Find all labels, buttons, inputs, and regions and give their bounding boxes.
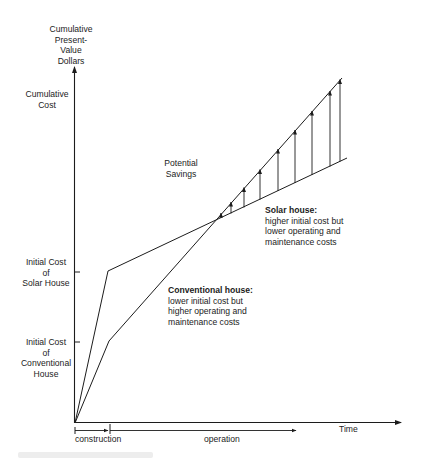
y-axis-title-line: Dollars	[40, 56, 102, 67]
annotation-line: maintenance costs	[265, 237, 343, 248]
label-line: Cumulative	[14, 89, 80, 100]
construction-label: construction	[75, 434, 121, 445]
conventional-house-annotation: Conventional house: lower initial cost b…	[168, 285, 253, 327]
initial-cost-solar-label: Initial Cost of Solar House	[16, 257, 76, 289]
label-line: Solar House	[16, 278, 76, 289]
cumulative-cost-label: Cumulative Cost	[14, 89, 80, 110]
label-line: Potential	[155, 158, 207, 169]
label-line: Initial Cost	[14, 337, 78, 348]
label-line: of	[14, 348, 78, 359]
label-line: Savings	[155, 169, 207, 180]
conventional-house-line	[75, 78, 342, 423]
annotation-line: maintenance costs	[168, 317, 253, 328]
annotation-title: Solar house:	[265, 205, 343, 216]
annotation-line: higher operating and	[168, 306, 253, 317]
cost-comparison-diagram	[0, 0, 421, 466]
label-line: of	[16, 268, 76, 279]
figure-caption-faint	[18, 452, 153, 458]
annotation-line: lower operating and	[265, 226, 343, 237]
label-line: House	[14, 369, 78, 380]
initial-cost-conventional-label: Initial Cost of Conventional House	[14, 337, 78, 379]
label-line: Conventional	[14, 358, 78, 369]
y-axis-title-line: Value	[40, 45, 102, 56]
annotation-line: higher initial cost but	[265, 216, 343, 227]
label-line: Initial Cost	[16, 257, 76, 268]
operation-label: operation	[204, 434, 240, 445]
potential-savings-label: Potential Savings	[155, 158, 207, 179]
annotation-title: Conventional house:	[168, 285, 253, 296]
y-axis-title-line: Cumulative	[40, 24, 102, 35]
y-axis-title-line: Present-	[40, 35, 102, 46]
solar-house-annotation: Solar house: higher initial cost but low…	[265, 205, 343, 247]
label-line: Cost	[14, 100, 80, 111]
x-axis-title: Time	[339, 424, 358, 435]
annotation-line: lower initial cost but	[168, 296, 253, 307]
y-axis-title: Cumulative Present- Value Dollars	[40, 24, 102, 66]
